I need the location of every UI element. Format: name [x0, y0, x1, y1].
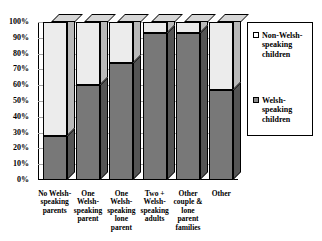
y-axis-tick-20: 20%	[13, 144, 29, 152]
bar-face-side	[233, 14, 241, 90]
bar-face-top	[217, 14, 249, 22]
bar-face-front	[76, 85, 100, 180]
bar-group[interactable]	[76, 22, 100, 180]
bar-face-front	[109, 63, 133, 180]
x-label-line: families	[168, 224, 208, 232]
x-axis-category-label: Other	[201, 190, 241, 198]
bar-segment-welsh-speaking[interactable]	[76, 85, 100, 180]
bar-face-side	[67, 14, 75, 136]
x-label-line: parent	[101, 224, 141, 232]
bar-face-front	[176, 33, 200, 180]
bar-segment-non-welsh-speaking[interactable]	[143, 22, 167, 33]
bar-group[interactable]	[43, 22, 67, 180]
bar-group[interactable]	[143, 22, 167, 180]
bar-face-top	[84, 14, 116, 22]
y-axis-labels: 100%90%80%70%60%50%40%30%20%10%0%	[0, 0, 30, 241]
bar-face-front	[143, 22, 167, 33]
bar-segment-non-welsh-speaking[interactable]	[209, 22, 233, 90]
y-axis-tick-40: 40%	[13, 113, 29, 121]
bar-segment-welsh-speaking[interactable]	[209, 90, 233, 180]
bar-face-front	[109, 22, 133, 63]
legend-label: Welsh-speaking children	[262, 96, 309, 124]
bar-face-top	[51, 14, 83, 22]
y-axis-tick-50: 50%	[13, 97, 29, 105]
bar-face-front	[143, 33, 167, 180]
bar-group[interactable]	[109, 22, 133, 180]
chart-title	[0, 0, 322, 2]
bar-face-top	[117, 14, 149, 22]
legend-swatch-dark	[253, 97, 259, 103]
bar-segment-non-welsh-speaking[interactable]	[176, 22, 200, 33]
bar-face-side	[100, 14, 108, 85]
y-axis-tick-30: 30%	[13, 129, 29, 137]
bar-segment-welsh-speaking[interactable]	[43, 136, 67, 180]
legend-item[interactable]: Welsh-speaking children	[253, 96, 309, 124]
y-axis-tick-70: 70%	[13, 65, 29, 73]
bar-face-side	[233, 82, 241, 180]
x-label-line: Other	[201, 190, 241, 198]
bar-segment-non-welsh-speaking[interactable]	[76, 22, 100, 85]
bar-face-front	[209, 90, 233, 180]
chart-legend: Non-Welsh-speaking childrenWelsh-speakin…	[247, 22, 313, 136]
bar-group[interactable]	[176, 22, 200, 180]
bar-face-side	[200, 25, 208, 180]
bar-segment-welsh-speaking[interactable]	[176, 33, 200, 180]
bar-segment-non-welsh-speaking[interactable]	[43, 22, 67, 136]
y-axis-tick-90: 90%	[13, 34, 29, 42]
bar-segment-non-welsh-speaking[interactable]	[109, 22, 133, 63]
bar-face-top	[151, 14, 183, 22]
x-axis-labels: No Welsh-speakingparentsOneWelsh-speakin…	[30, 190, 238, 241]
y-axis-tick-10: 10%	[13, 160, 29, 168]
y-axis-tick-100: 100%	[9, 18, 29, 26]
bar-segment-welsh-speaking[interactable]	[143, 33, 167, 180]
bar-face-top	[184, 14, 216, 22]
bar-face-side	[167, 25, 175, 180]
bar-face-side	[100, 77, 108, 180]
bar-face-side	[133, 55, 141, 180]
plot-area	[30, 14, 238, 190]
bar-group[interactable]	[209, 22, 233, 180]
bar-face-front	[43, 136, 67, 180]
bar-segment-welsh-speaking[interactable]	[109, 63, 133, 180]
legend-label: Non-Welsh-speaking children	[262, 31, 309, 59]
bar-series-group	[38, 22, 238, 180]
y-axis-tick-0: 0%	[17, 176, 29, 184]
bar-face-front	[76, 22, 100, 85]
bar-face-front	[209, 22, 233, 90]
legend-item[interactable]: Non-Welsh-speaking children	[253, 31, 309, 59]
bar-face-front	[43, 22, 67, 136]
bar-face-front	[176, 22, 200, 33]
y-axis-tick-80: 80%	[13, 50, 29, 58]
legend-swatch-light	[253, 32, 259, 38]
y-axis-tick-60: 60%	[13, 81, 29, 89]
bar-face-side	[67, 128, 75, 180]
chart-container: 100%90%80%70%60%50%40%30%20%10%0% No Wel…	[0, 0, 322, 241]
